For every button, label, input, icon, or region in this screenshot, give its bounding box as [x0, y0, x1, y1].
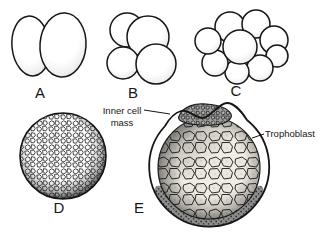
cell-shape	[223, 30, 257, 64]
cell-shape	[136, 44, 176, 84]
trophoblast-label: Trophoblast	[265, 128, 315, 139]
cell-mass-topleft-shading	[158, 117, 260, 219]
stage-e-blastocyst-drawing: E	[134, 103, 269, 227]
stage-b-four-cell-drawing: B	[107, 13, 176, 101]
stage-label-d: D	[54, 199, 65, 216]
inner-cell-mass-leader-line	[144, 110, 170, 114]
stage-label-e: E	[134, 199, 144, 216]
cell-shape	[195, 28, 221, 54]
stage-d-morula-drawing: D	[20, 113, 106, 216]
stage-label-b: B	[128, 84, 138, 101]
inner-cell-mass-label-line2: mass	[111, 117, 134, 128]
stage-label-a: A	[35, 84, 45, 101]
cell-shape	[107, 47, 139, 79]
embryo-development-figure: A B C D E	[0, 0, 331, 234]
stage-c-eight-cell-drawing: C	[195, 10, 288, 99]
stage-label-c: C	[231, 82, 242, 99]
annotation-inner-cell-mass: Inner cell mass	[103, 105, 170, 128]
stage-a-two-cell-drawing: A	[9, 11, 88, 101]
morula-shading	[20, 113, 106, 199]
figure-canvas: A B C D E	[0, 0, 331, 234]
inner-cell-mass-label-line1: Inner cell	[103, 105, 142, 116]
